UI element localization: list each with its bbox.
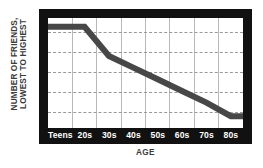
y-axis-label-line-1: NUMBER OF FRIENDS, xyxy=(10,18,19,111)
x-axis-tick-labels: Teens 20s 30s 40s 50s 60s 70s 80s xyxy=(48,128,243,142)
y-axis-label-line-2: LOWEST TO HIGHEST xyxy=(19,19,28,109)
x-tick-20s: 20s xyxy=(73,128,97,142)
x-tick-teens: Teens xyxy=(48,128,73,142)
x-tick-40s: 40s xyxy=(121,128,145,142)
chart-frame: Teens 20s 30s 40s 50s 60s 70s 80s xyxy=(39,9,252,144)
x-tick-70s: 70s xyxy=(194,128,218,142)
x-tick-50s: 50s xyxy=(146,128,170,142)
friends-by-age-line-chart: NUMBER OF FRIENDS, LOWEST TO HIGHEST Tee… xyxy=(0,0,263,168)
x-tick-80s: 80s xyxy=(219,128,243,142)
x-tick-60s: 60s xyxy=(170,128,194,142)
x-tick-30s: 30s xyxy=(97,128,121,142)
y-axis-label: NUMBER OF FRIENDS, LOWEST TO HIGHEST xyxy=(6,16,32,112)
data-series-line xyxy=(48,18,243,128)
plot-area xyxy=(48,18,243,128)
x-axis-title: AGE xyxy=(39,148,252,157)
